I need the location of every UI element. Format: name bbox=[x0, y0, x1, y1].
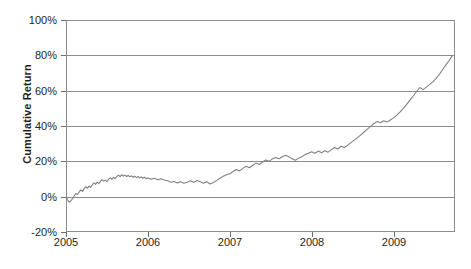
y-axis-title: Cumulative Return bbox=[21, 49, 33, 179]
y-tick-label: 40% bbox=[35, 120, 57, 132]
series-line bbox=[66, 20, 455, 232]
x-tick-label: 2008 bbox=[300, 236, 324, 248]
x-tick-label: 2006 bbox=[136, 236, 160, 248]
y-tick-label: 60% bbox=[35, 85, 57, 97]
y-tick-label: 100% bbox=[29, 14, 57, 26]
x-tick-label: 2007 bbox=[218, 236, 242, 248]
y-tick-label: 0% bbox=[41, 191, 57, 203]
x-tick-label: 2005 bbox=[54, 236, 78, 248]
cumulative-return-chart: Cumulative Return 100%80%60%40%20%0%-20%… bbox=[0, 0, 471, 269]
plot-area: 100%80%60%40%20%0%-20% 20052006200720082… bbox=[66, 20, 455, 232]
cumulative-return-path bbox=[66, 55, 453, 202]
x-tick-label: 2009 bbox=[382, 236, 406, 248]
y-tick-label: 20% bbox=[35, 155, 57, 167]
y-tick-label: 80% bbox=[35, 49, 57, 61]
